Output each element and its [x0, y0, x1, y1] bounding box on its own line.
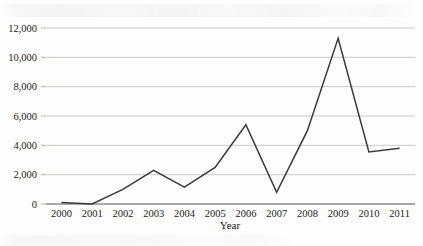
x-axis-tick-label: 2007: [266, 208, 287, 219]
x-axis-tick-label: 2005: [205, 208, 226, 219]
x-axis-tick-label: 2002: [112, 208, 133, 219]
x-axis-tick-label: 2004: [174, 208, 196, 219]
y-axis-tick-marks: [41, 28, 46, 204]
x-axis-tick-label: 2011: [389, 208, 410, 219]
data-series-line: [61, 38, 399, 204]
chart-canvas: 02,0004,0006,0008,00010,00012,000 200020…: [0, 0, 423, 246]
y-axis-tick-labels: 02,0004,0006,0008,00010,00012,000: [8, 23, 37, 210]
x-axis-tick-labels: 2000200120022003200420052006200720082009…: [51, 208, 410, 219]
x-axis-title: Year: [220, 219, 241, 231]
y-axis-tick-label: 10,000: [8, 52, 37, 63]
x-axis-tick-label: 2008: [297, 208, 318, 219]
x-axis-tick-label: 2000: [51, 208, 72, 219]
y-axis-tick-label: 6,000: [13, 111, 37, 122]
x-axis-tick-label: 2001: [82, 208, 103, 219]
y-axis-tick-label: 8,000: [13, 81, 37, 92]
y-axis-tick-label: 0: [32, 199, 37, 210]
x-axis-tick-label: 2009: [328, 208, 349, 219]
y-axis-tick-label: 4,000: [13, 140, 37, 151]
scan-artifact-bottom-caption: [0, 235, 423, 246]
figure-line-chart: 02,0004,0006,0008,00010,00012,000 200020…: [0, 0, 423, 246]
y-axis-tick-label: 12,000: [8, 23, 37, 34]
x-axis-tick-label: 2006: [235, 208, 256, 219]
y-axis-tick-label: 2,000: [13, 169, 37, 180]
x-axis-tick-label: 2003: [143, 208, 164, 219]
x-axis-tick-label: 2010: [358, 208, 379, 219]
y-axis-gridlines: [46, 28, 415, 175]
